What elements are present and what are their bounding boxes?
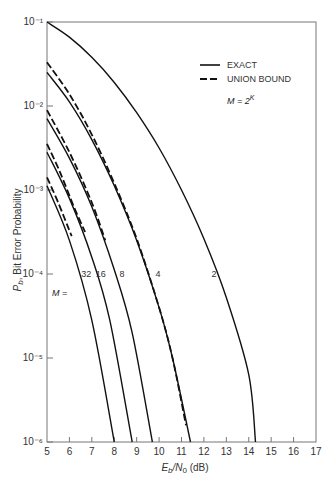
y-tick-label: 10⁻¹: [24, 16, 44, 27]
x-tick-label: 15: [266, 446, 278, 457]
curve-m-2: [47, 22, 256, 442]
x-tick-label: 9: [134, 446, 140, 457]
y-tick-label: 10⁻⁶: [23, 436, 43, 447]
curve-label-m2: 2: [211, 269, 216, 279]
curves: [47, 22, 256, 442]
curve-m-4-union-bound: [47, 62, 186, 425]
x-axis-ticks: 567891011121314151617: [44, 437, 322, 457]
x-tick-label: 10: [154, 446, 166, 457]
y-tick-label: 10⁻⁴: [23, 268, 43, 279]
x-tick-label: 13: [221, 446, 233, 457]
x-tick-label: 11: [176, 446, 187, 457]
y-tick-label: 10⁻³: [24, 184, 44, 195]
x-tick-label: 8: [111, 446, 117, 457]
ber-chart: 567891011121314151617 10⁻¹10⁻²10⁻³10⁻⁴10…: [0, 0, 331, 479]
y-axis-ticks: 10⁻¹10⁻²10⁻³10⁻⁴10⁻⁵10⁻⁶: [23, 16, 53, 447]
x-tick-label: 14: [243, 446, 255, 457]
x-tick-label: 5: [44, 446, 50, 457]
legend-union-label: UNION BOUND: [227, 74, 292, 84]
x-tick-label: 17: [310, 446, 322, 457]
curve-m-4: [47, 72, 191, 442]
legend: EXACT UNION BOUND M = 2K: [200, 60, 292, 106]
curve-label-m4: 4: [155, 269, 160, 279]
x-tick-label: 12: [198, 446, 210, 457]
curve-label-m8: 8: [120, 269, 125, 279]
x-tick-label: 16: [288, 446, 300, 457]
x-tick-label: 6: [67, 446, 73, 457]
m-equals-label: M =: [52, 288, 67, 298]
plot-frame: [47, 22, 316, 442]
x-axis-label: Eb/N0 (dB): [161, 462, 208, 475]
curve-label-m32: 32: [81, 269, 91, 279]
legend-exact-label: EXACT: [227, 60, 258, 70]
y-tick-label: 10⁻⁵: [23, 352, 43, 363]
x-tick-label: 7: [89, 446, 95, 457]
m-equals-2k-annotation: M = 2K: [227, 94, 255, 106]
curve-m-32-union-bound: [47, 177, 72, 236]
curve-label-m16: 16: [96, 269, 106, 279]
y-tick-label: 10⁻²: [24, 100, 44, 111]
